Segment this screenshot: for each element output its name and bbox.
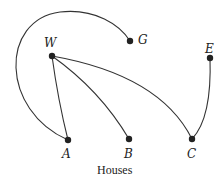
edge-e-c <box>192 58 210 139</box>
label-w: W <box>44 37 56 49</box>
edge-w-b <box>52 56 129 139</box>
label-g: G <box>138 34 148 46</box>
node-a <box>65 137 71 143</box>
label-a: A <box>62 148 71 160</box>
edge-w-a <box>52 56 68 140</box>
edge-w-c <box>52 56 192 139</box>
label-e: E <box>205 43 214 55</box>
caption-houses: Houses <box>97 164 132 176</box>
node-w <box>49 53 55 59</box>
node-c <box>189 136 195 142</box>
node-g <box>127 38 133 44</box>
label-c: C <box>187 148 196 160</box>
node-b <box>126 136 132 142</box>
label-b: B <box>124 148 133 160</box>
edge-a-g <box>16 11 130 140</box>
